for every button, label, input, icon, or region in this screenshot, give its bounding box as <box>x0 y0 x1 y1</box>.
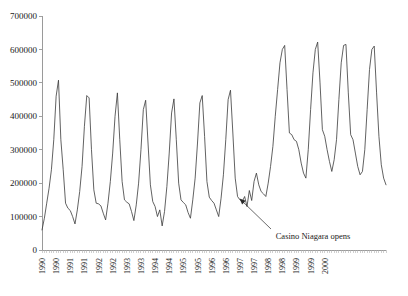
y-axis-tick-label: 0 <box>33 245 38 255</box>
annotation-leader-line <box>243 202 271 229</box>
time-series-chart: 0100000200000300000400000500000600000700… <box>0 0 408 296</box>
x-axis-tick-label: 1999 <box>307 258 316 274</box>
annotation-casino-niagara: Casino Niagara opens <box>240 199 351 242</box>
annotation-label: Casino Niagara opens <box>276 231 351 241</box>
x-axis-tick-label: 1995 <box>194 258 203 274</box>
x-axis-tick-label: 1991 <box>80 258 89 274</box>
x-axis-tick-label: 1995 <box>179 258 188 274</box>
x-axis-tick-label: 1994 <box>151 258 160 274</box>
x-axis-tick-label: 2000 <box>321 258 330 274</box>
x-axis-tick-label: 1998 <box>264 258 273 274</box>
y-axis-tick-label: 200000 <box>10 178 38 188</box>
y-axis-tick-labels: 0100000200000300000400000500000600000700… <box>10 11 38 255</box>
x-axis-tick-label: 1997 <box>250 258 259 274</box>
x-axis-tick-label: 1998 <box>278 258 287 274</box>
y-axis-tick-label: 600000 <box>10 45 38 55</box>
y-axis-tick-label: 500000 <box>10 78 38 88</box>
x-axis-tick-label: 1992 <box>109 258 118 274</box>
y-axis-tick-label: 700000 <box>10 11 38 21</box>
x-axis-tick-labels: 1990199019911991199219921993199319941994… <box>38 258 330 274</box>
x-axis-tick-label: 1990 <box>52 258 61 274</box>
x-axis-tick-label: 1996 <box>222 258 231 274</box>
x-axis-tick-label: 1993 <box>123 258 132 274</box>
data-series-line <box>42 42 386 230</box>
y-axis-tick-label: 300000 <box>10 145 38 155</box>
x-axis-tick-label: 1999 <box>292 258 301 274</box>
x-axis-tick-label: 1994 <box>165 258 174 274</box>
x-axis-tick-label: 1997 <box>236 258 245 274</box>
x-axis-tick-label: 1990 <box>38 258 47 274</box>
y-axis-tick-label: 400000 <box>10 111 38 121</box>
chart-container: 0100000200000300000400000500000600000700… <box>0 0 408 296</box>
x-axis-minor-ticks <box>42 250 386 253</box>
x-axis-tick-label: 1992 <box>95 258 104 274</box>
x-axis-tick-label: 1991 <box>66 258 75 274</box>
x-axis-tick-label: 1993 <box>137 258 146 274</box>
x-axis-tick-label: 1996 <box>208 258 217 274</box>
y-axis-tick-label: 100000 <box>10 212 38 222</box>
